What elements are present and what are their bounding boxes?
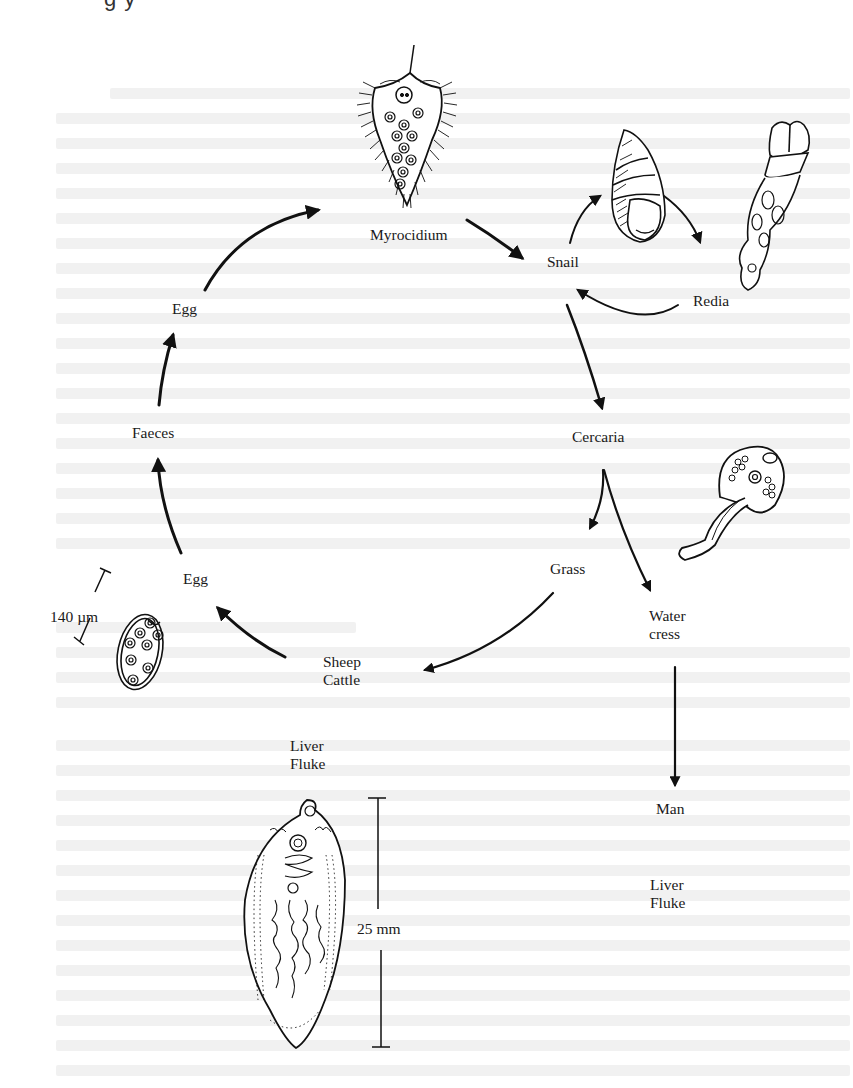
- label-cercaria: Cercaria: [572, 428, 625, 446]
- arrow-egg-to-myrocidium: [205, 210, 318, 290]
- label-redia: Redia: [693, 292, 729, 310]
- label-faeces: Faeces: [132, 424, 174, 442]
- liver-fluke-illustration: [244, 800, 345, 1048]
- label-myrocidium: Myrocidium: [370, 226, 448, 244]
- arrow-shell-to-redia: [664, 196, 700, 242]
- arrow-grass-to-sheepcattle: [425, 593, 553, 670]
- label-egg-lower: Egg: [183, 570, 208, 588]
- snail-shell-illustration: [612, 130, 665, 242]
- label-man-liver-fluke: Liver Fluke: [650, 876, 685, 912]
- label-liver-fluke: Liver Fluke: [290, 737, 325, 773]
- arrow-myrocidium-to-snail: [467, 220, 522, 258]
- myrocidium-illustration: [357, 45, 457, 208]
- label-sheep-cattle: Sheep Cattle: [323, 653, 361, 689]
- cercaria-illustration: [679, 447, 784, 560]
- arrow-snail-to-cercaria: [567, 305, 602, 408]
- label-water-cress: Water cress: [649, 607, 686, 643]
- label-egg-upper: Egg: [172, 300, 197, 318]
- life-cycle-diagram: [0, 0, 853, 1088]
- egg-scale-bar: [74, 568, 111, 645]
- egg-illustration: [111, 610, 170, 693]
- label-grass: Grass: [550, 560, 585, 578]
- label-man: Man: [656, 800, 684, 818]
- arrow-cercaria-to-grass: [590, 470, 603, 528]
- arrow-snail-to-shell: [570, 196, 600, 243]
- arrow-redia-to-snail: [578, 290, 678, 315]
- arrow-cercaria-to-watercress: [604, 470, 650, 590]
- arrow-faeces-to-egg: [159, 335, 173, 405]
- arrow-egg-to-faeces: [158, 460, 181, 553]
- redia-illustration: [740, 122, 810, 291]
- arrow-sheepcattle-to-egg: [218, 608, 285, 657]
- label-egg-scale: 140 µm: [50, 608, 98, 626]
- label-snail: Snail: [547, 253, 579, 271]
- label-fluke-scale: 25 mm: [357, 920, 401, 938]
